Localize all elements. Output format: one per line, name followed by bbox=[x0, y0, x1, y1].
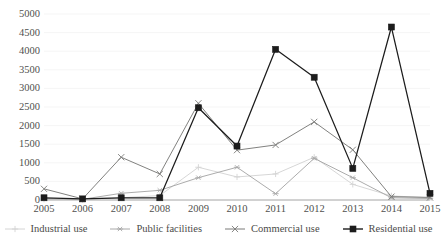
legend-marker-icon bbox=[4, 223, 26, 235]
x-axis-tick-label: 2006 bbox=[72, 203, 93, 215]
y-axis-tick-label: 2500 bbox=[0, 102, 40, 113]
series-commercial-use bbox=[41, 100, 433, 202]
legend-marker-icon bbox=[224, 223, 246, 235]
y-axis-tick-label: 4500 bbox=[0, 28, 40, 39]
x-axis-tick-label: 2008 bbox=[149, 203, 170, 215]
data-point-marker bbox=[80, 196, 86, 202]
y-axis-tick-label: 3500 bbox=[0, 65, 40, 76]
data-point-marker bbox=[311, 74, 317, 80]
x-axis-tick-label: 2013 bbox=[342, 203, 363, 215]
legend-item-commercial-use[interactable]: Commercial use bbox=[224, 223, 320, 235]
y-axis-tick-label: 500 bbox=[0, 176, 40, 187]
x-axis-tick-label: 2015 bbox=[420, 203, 441, 215]
legend-item-label: Industrial use bbox=[31, 223, 88, 235]
data-point-marker bbox=[273, 46, 279, 52]
x-axis-tick-label: 2010 bbox=[227, 203, 248, 215]
legend-item-public-facilities[interactable]: Public facilities bbox=[109, 223, 202, 235]
y-axis: 5000450040003500300025002000150010005000 bbox=[0, 0, 40, 214]
data-point-marker bbox=[427, 190, 433, 196]
legend-item-label: Public facilities bbox=[136, 223, 202, 235]
y-axis-tick-label: 1000 bbox=[0, 158, 40, 169]
legend-item-label: Commercial use bbox=[251, 223, 320, 235]
y-axis-tick-label: 2000 bbox=[0, 121, 40, 132]
data-point-marker bbox=[157, 195, 163, 201]
x-axis-tick-label: 2007 bbox=[111, 203, 132, 215]
plot-area bbox=[44, 14, 430, 200]
y-axis-tick-label: 1500 bbox=[0, 139, 40, 150]
x-axis-tick-label: 2009 bbox=[188, 203, 209, 215]
legend-item-label: Residential use bbox=[369, 223, 433, 235]
x-axis-tick-label: 2011 bbox=[265, 203, 286, 215]
x-axis-tick-label: 2005 bbox=[34, 203, 55, 215]
x-axis-tick-label: 2012 bbox=[304, 203, 325, 215]
legend-marker-icon bbox=[342, 223, 364, 235]
data-point-marker bbox=[388, 24, 394, 30]
data-point-marker bbox=[234, 143, 240, 149]
x-axis-tick-label: 2014 bbox=[381, 203, 402, 215]
chart-legend: Industrial usePublic facilitiesCommercia… bbox=[0, 219, 436, 239]
legend-marker-icon bbox=[109, 223, 131, 235]
data-point-marker bbox=[350, 226, 356, 232]
data-point-marker bbox=[118, 195, 124, 201]
y-axis-tick-label: 4000 bbox=[0, 46, 40, 57]
series-line bbox=[44, 103, 430, 199]
y-axis-tick-label: 3000 bbox=[0, 83, 40, 94]
series-layer bbox=[44, 14, 430, 200]
data-point-marker bbox=[350, 165, 356, 171]
y-axis-tick-label: 5000 bbox=[0, 9, 40, 20]
legend-item-residential-use[interactable]: Residential use bbox=[342, 223, 433, 235]
data-point-marker bbox=[41, 195, 47, 201]
x-axis: 2005200620072008200920102011201220132014… bbox=[44, 203, 430, 219]
legend-item-industrial-use[interactable]: Industrial use bbox=[4, 223, 88, 235]
series-industrial-use bbox=[41, 154, 433, 203]
data-point-marker bbox=[195, 105, 201, 111]
